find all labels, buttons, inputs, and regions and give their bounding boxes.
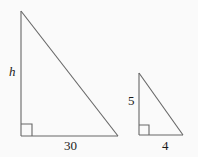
triangles-diagram: [0, 0, 198, 157]
small-right-triangle: [139, 73, 183, 135]
small-triangle-hypotenuse: [139, 73, 183, 135]
small-triangle-height-label: 5: [128, 94, 135, 107]
large-triangle-height-label: h: [9, 65, 16, 78]
large-triangle-base-label: 30: [64, 139, 77, 152]
small-triangle-right-angle-marker: [139, 125, 149, 135]
large-triangle-right-angle-marker: [21, 124, 32, 136]
geometry-figure: h 30 5 4: [0, 0, 198, 157]
large-right-triangle: [21, 11, 118, 136]
small-triangle-base-label: 4: [162, 139, 169, 152]
large-triangle-hypotenuse: [21, 11, 118, 136]
